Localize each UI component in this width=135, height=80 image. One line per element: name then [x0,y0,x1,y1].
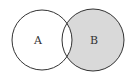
set-b-label: B [90,34,98,47]
venn-diagram: A B [0,0,135,80]
set-a-label: A [33,34,43,47]
